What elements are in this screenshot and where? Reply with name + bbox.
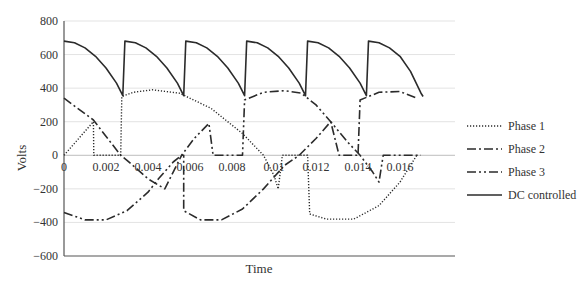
chart-container: 8006004002000−200−400−600 00.0020.0040.0…	[0, 0, 588, 284]
legend-label: DC controlled	[508, 188, 576, 202]
y-axis-ticks: 8006004002000−200−400−600	[33, 14, 58, 263]
x-axis-ticks: 00.0020.0040.0060.0080.010.0120.0140.016	[61, 160, 414, 174]
y-tick-label: −600	[33, 249, 58, 263]
legend-label: Phase 2	[508, 142, 545, 156]
x-tick-label: 0.012	[303, 160, 330, 174]
legend-label: Phase 1	[508, 119, 545, 133]
x-tick-label: 0.004	[135, 160, 162, 174]
y-tick-label: 200	[40, 115, 58, 129]
y-tick-label: 400	[40, 81, 58, 95]
x-tick-label: 0.006	[177, 160, 204, 174]
axes	[64, 21, 455, 256]
x-tick-label: 0.014	[345, 160, 372, 174]
y-tick-label: 0	[52, 148, 58, 162]
y-tick-label: 800	[40, 14, 58, 28]
series-phase-1	[64, 90, 417, 219]
legend: Phase 1Phase 2Phase 3DC controlled	[467, 119, 576, 202]
x-tick-label: 0.008	[219, 160, 246, 174]
series-lines	[64, 41, 423, 220]
y-tick-label: −400	[33, 215, 58, 229]
x-tick-label: 0.002	[93, 160, 120, 174]
x-axis-label: Time	[246, 261, 273, 276]
y-tick-label: −200	[33, 182, 58, 196]
y-axis-label: Volts	[14, 145, 29, 172]
x-tick-label: 0	[61, 160, 67, 174]
line-chart: 8006004002000−200−400−600 00.0020.0040.0…	[0, 0, 588, 284]
y-tick-label: 600	[40, 48, 58, 62]
x-tick-label: 0.016	[387, 160, 414, 174]
legend-label: Phase 3	[508, 165, 545, 179]
x-tick-label: 0.01	[264, 160, 285, 174]
